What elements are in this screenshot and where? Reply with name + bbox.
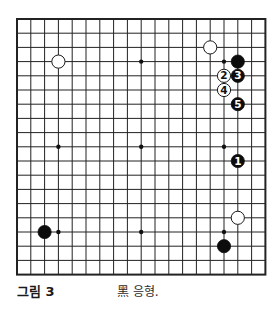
figure-label: 그림 3 bbox=[17, 281, 55, 300]
move-number: 3 bbox=[234, 69, 241, 81]
black-stone-1: 1 bbox=[231, 154, 244, 167]
black-stone bbox=[38, 225, 51, 238]
figure-caption: 黑 응형. bbox=[117, 282, 159, 299]
star-point bbox=[222, 59, 226, 63]
move-number: 2 bbox=[220, 69, 227, 81]
go-board: 23451 bbox=[0, 0, 279, 285]
black-stone bbox=[217, 240, 230, 253]
star-point bbox=[222, 145, 226, 149]
white-stone-2: 2 bbox=[217, 69, 230, 82]
black-stone-3: 3 bbox=[231, 69, 244, 82]
star-point bbox=[139, 230, 143, 234]
move-number: 1 bbox=[234, 155, 241, 167]
go-board-diagram: 23451 bbox=[0, 0, 279, 285]
white-stone-4: 4 bbox=[217, 83, 230, 96]
move-number: 5 bbox=[234, 98, 241, 110]
star-point bbox=[56, 230, 60, 234]
white-stone bbox=[204, 41, 217, 54]
star-point bbox=[56, 145, 60, 149]
white-stone bbox=[52, 55, 65, 68]
white-stone bbox=[231, 211, 244, 224]
move-number: 4 bbox=[220, 84, 227, 96]
star-point bbox=[222, 230, 226, 234]
star-point bbox=[139, 59, 143, 63]
black-stone-5: 5 bbox=[231, 98, 244, 111]
star-point bbox=[139, 145, 143, 149]
black-stone bbox=[231, 55, 244, 68]
